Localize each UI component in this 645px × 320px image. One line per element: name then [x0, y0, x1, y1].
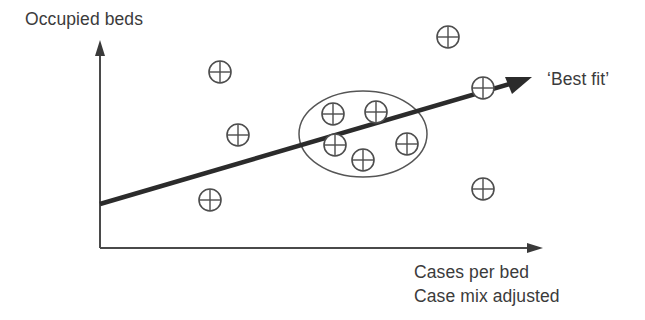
data-point-marker [227, 124, 249, 146]
best-fit-line [100, 77, 532, 204]
data-point-marker [352, 149, 374, 171]
best-fit-label: ‘Best fit’ [547, 69, 609, 89]
y-axis [95, 40, 105, 248]
data-point-marker [324, 134, 346, 156]
data-point-marker [199, 189, 221, 211]
x-axis-label-line1: Cases per bed [414, 262, 529, 282]
x-axis-arrowhead-icon [527, 243, 543, 253]
data-point-layer [199, 26, 494, 211]
data-point-marker [472, 77, 494, 99]
x-axis [100, 243, 543, 253]
data-point-marker [365, 101, 387, 123]
data-point-marker [322, 103, 344, 125]
x-axis-label-line2: Case mix adjusted [414, 286, 560, 306]
best-fit-arrowhead-icon [505, 77, 532, 94]
data-point-marker [437, 26, 459, 48]
scatter-plot-figure: Occupied beds Cases per bed Case mix adj… [0, 0, 645, 320]
data-point-marker [472, 178, 494, 200]
data-point-marker [396, 133, 418, 155]
data-point-marker [209, 61, 231, 83]
y-axis-label: Occupied beds [25, 9, 143, 29]
best-fit-line-segment [100, 83, 513, 204]
y-axis-arrowhead-icon [95, 40, 105, 56]
scatter-plot-svg: Occupied beds Cases per bed Case mix adj… [0, 0, 645, 320]
